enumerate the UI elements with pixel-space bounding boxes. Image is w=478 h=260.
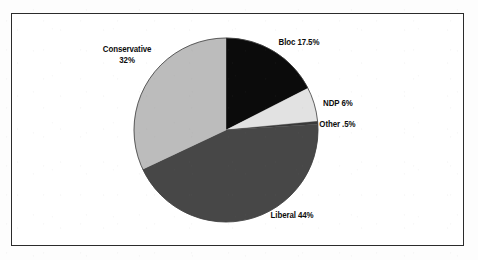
pie-label-conservative-name: Conservative bbox=[103, 44, 152, 55]
pie-label-liberal: Liberal 44% bbox=[271, 210, 314, 221]
chart-figure: Bloc 17.5% NDP 6% Other .5% Liberal 44% … bbox=[0, 0, 478, 260]
pie-label-bloc: Bloc 17.5% bbox=[279, 37, 320, 48]
pie-chart bbox=[0, 0, 478, 260]
pie-label-ndp: NDP 6% bbox=[323, 98, 353, 109]
pie-slices bbox=[134, 38, 318, 222]
pie-label-conservative-value: 32% bbox=[103, 55, 152, 66]
pie-label-conservative: Conservative 32% bbox=[103, 44, 152, 66]
pie-label-other: Other .5% bbox=[319, 119, 355, 130]
